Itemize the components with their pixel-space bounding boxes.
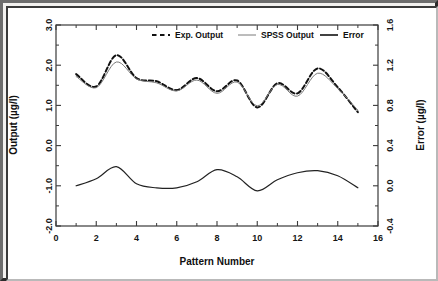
y2-tick-label: -0.4 xyxy=(385,218,395,234)
y-tick-label: -1.0 xyxy=(44,178,54,194)
y-axis-left-title: Output (µg/l) xyxy=(8,95,19,155)
y-axis-right-title: Error (µg/l) xyxy=(415,99,426,150)
y-tick-label: 2.0 xyxy=(44,59,54,72)
y-tick-label: 1.0 xyxy=(44,99,54,112)
y-axis-left-ticks: -2.0-1.00.01.02.03.0 xyxy=(44,19,61,234)
series-line-exp-output xyxy=(76,55,358,112)
x-axis-title: Pattern Number xyxy=(179,256,254,267)
x-tick-label: 4 xyxy=(134,233,139,243)
y-tick-label: 3.0 xyxy=(44,19,54,32)
y2-tick-label: 1.2 xyxy=(385,59,395,72)
y-tick-label: 0.0 xyxy=(44,139,54,152)
y-axis-right-ticks: -0.40.00.40.81.21.6 xyxy=(373,19,395,234)
legend-label-3: Error xyxy=(343,30,364,40)
x-tick-label: 14 xyxy=(333,233,343,243)
y2-tick-label: 0.4 xyxy=(385,139,395,152)
chart-svg: 0246810121416 -2.0-1.00.01.02.03.0 -0.40… xyxy=(0,0,438,281)
x-tick-label: 8 xyxy=(214,233,219,243)
x-tick-label: 2 xyxy=(94,233,99,243)
legend-label-1: Exp. Output xyxy=(175,30,223,40)
x-tick-label: 10 xyxy=(252,233,262,243)
y2-tick-label: 0.8 xyxy=(385,99,395,112)
x-axis-ticks: 0246810121416 xyxy=(53,25,383,243)
x-tick-label: 16 xyxy=(373,233,383,243)
chart-legend: Exp. OutputSPSS OutputError xyxy=(152,30,364,40)
y2-tick-label: 0.0 xyxy=(385,180,395,193)
y2-tick-label: 1.6 xyxy=(385,19,395,32)
x-tick-label: 0 xyxy=(53,233,58,243)
series-line-error xyxy=(76,167,358,191)
data-series-layer xyxy=(76,55,358,191)
legend-label-2: SPSS Output xyxy=(261,30,314,40)
chart-figure: 0246810121416 -2.0-1.00.01.02.03.0 -0.40… xyxy=(0,0,438,281)
plot-area-border xyxy=(56,25,378,226)
y-tick-label: -2.0 xyxy=(44,218,54,234)
x-tick-label: 6 xyxy=(174,233,179,243)
x-tick-label: 12 xyxy=(292,233,302,243)
